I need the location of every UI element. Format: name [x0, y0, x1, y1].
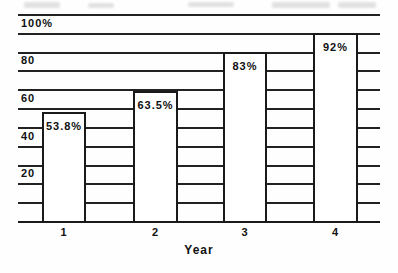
y-tick-label-100: 100%: [21, 17, 53, 30]
gridline-110pct: [18, 14, 380, 16]
scan-artifact: [188, 2, 234, 7]
bar-value-label: 92%: [315, 35, 356, 53]
bar-year-4: 92%: [313, 33, 358, 223]
bar-year-2: 63.5%: [133, 91, 178, 223]
bar-value-label: 53.8%: [44, 114, 84, 132]
x-tick-label-3: 3: [223, 226, 267, 239]
bar-value-label: 83%: [225, 54, 265, 72]
scan-artifact: [88, 3, 114, 8]
scan-artifact: [272, 2, 330, 8]
scan-artifact: [24, 2, 60, 8]
scan-artifact: [338, 2, 376, 8]
bar-year-3: 83%: [223, 52, 267, 223]
y-tick-label-60: 60: [21, 92, 35, 105]
x-tick-label-2: 2: [133, 226, 178, 239]
y-tick-label-40: 40: [21, 130, 35, 143]
x-axis-title: Year: [0, 244, 398, 257]
x-tick-label-1: 1: [42, 226, 86, 239]
bar-value-label: 63.5%: [135, 93, 176, 111]
bar-year-1: 53.8%: [42, 112, 86, 223]
x-tick-label-4: 4: [313, 226, 358, 239]
bar-chart-figure: 20406080100%53.8%163.5%283%392%4 Year: [0, 0, 398, 273]
y-tick-label-20: 20: [21, 167, 35, 180]
y-tick-label-80: 80: [21, 54, 35, 67]
